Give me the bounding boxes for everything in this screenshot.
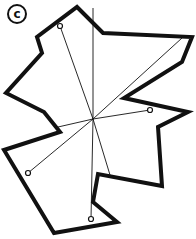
- ray-line: [60, 26, 93, 119]
- ray-lines: [26, 8, 183, 222]
- ray-endpoint-marker: [26, 171, 31, 176]
- ray-line: [93, 119, 110, 175]
- panel-label-badge: c: [7, 4, 27, 24]
- ray-endpoint-marker: [58, 24, 63, 29]
- ray-line: [28, 119, 93, 173]
- star-polygon-diagram: [0, 0, 196, 239]
- diagram-canvas: c: [0, 0, 196, 239]
- ray-endpoint-marker: [148, 108, 153, 113]
- irregular-polygon-outline: [4, 7, 192, 233]
- ray-endpoint-marker: [89, 217, 94, 222]
